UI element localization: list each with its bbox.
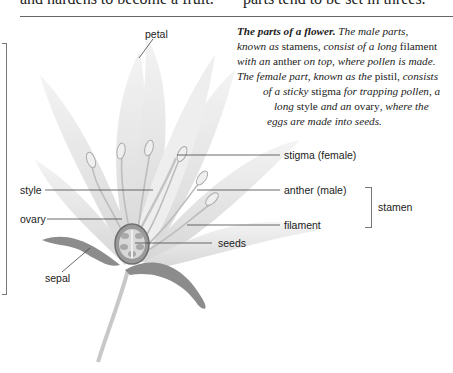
flower-caption: The parts of a flower. The male parts, k… [237,24,453,129]
caption-text: , where the [380,100,429,112]
label-style: style [20,184,42,196]
label-ovary: ovary [20,213,46,225]
label-filament: filament [284,219,321,231]
ovary [115,224,149,264]
caption-text: , consists [397,70,438,82]
caption-text: of a sticky [263,85,311,97]
label-stigma: stigma (female) [284,149,356,161]
caption-line-0: The parts of a flower. The male parts, [237,24,453,39]
label-seeds: seeds [218,237,246,249]
caption-term: ovary [354,100,379,112]
caption-text: and an [318,100,354,112]
label-sepal: sepal [45,272,70,284]
stamen-bracket [365,187,372,228]
caption-line-2: with an anther on top, where pollen is m… [237,54,453,69]
caption-term: stigma [311,85,341,97]
label-stamen: stamen [378,201,412,213]
caption-line-1: known as stamens, consist of a long fila… [237,39,453,54]
caption-text: The male parts, [338,25,408,37]
caption-line-4: of a sticky stigma for trapping pollen, … [237,84,453,99]
caption-term: style [297,100,318,112]
stem [98,270,128,362]
caption-text: with an [237,55,273,67]
caption-term: anther [273,55,301,67]
label-petal: petal [145,28,168,40]
caption-text: for trapping pollen, a [341,85,440,97]
label-anther: anther (male) [284,184,346,196]
caption-text: , consist of a long [318,40,400,52]
caption-seg: The male parts, [338,25,408,37]
caption-text: long [274,100,297,112]
caption-term: stamens [282,40,318,52]
caption-title: The parts of a flower. [237,25,336,37]
caption-line-3: The female part, known as the pistil, co… [237,69,453,84]
caption-line-5: long style and an ovary, where the [237,99,453,114]
caption-text: The female part, known as the [237,70,375,82]
caption-text: eggs are made into seeds. [267,115,382,127]
caption-term: filament [400,40,437,52]
caption-line-6: eggs are made into seeds. [237,114,453,129]
caption-text: on top, where pollen is made. [301,55,435,67]
caption-text: known as [237,40,282,52]
caption-term: pistil [375,70,397,82]
